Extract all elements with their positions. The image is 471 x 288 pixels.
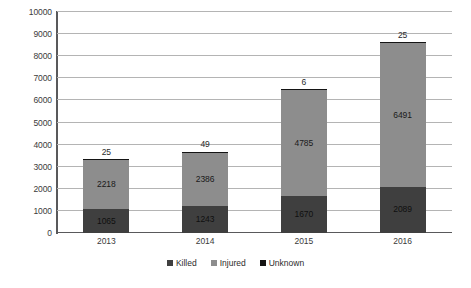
y-axis-tick-label: 4000 xyxy=(33,140,52,150)
y-axis-tick-label: 9000 xyxy=(33,29,52,39)
bar-value-label-injured: 2218 xyxy=(83,180,129,189)
bar-segment-unknown xyxy=(182,152,228,153)
legend-item-injured[interactable]: Injured xyxy=(211,258,246,268)
bar-value-label-unknown: 49 xyxy=(182,140,228,149)
bar-group: 2089649125 xyxy=(380,12,426,233)
legend-label: Unknown xyxy=(269,258,304,268)
y-axis-tick-labels: 1000090008000700060005000400030002000100… xyxy=(0,12,52,233)
bar-value-label-killed: 2089 xyxy=(380,205,426,214)
plot-area: 106522182512432386491670478562089649125 xyxy=(57,12,452,233)
bar-value-label-injured: 6491 xyxy=(380,111,426,120)
bar-value-label-killed: 1670 xyxy=(281,210,327,219)
y-axis-tick-label: 8000 xyxy=(33,51,52,61)
bar-value-label-unknown: 6 xyxy=(281,78,327,87)
y-axis-tick-label: 6000 xyxy=(33,95,52,105)
bar-segment-unknown xyxy=(380,42,426,43)
y-axis-tick-label: 10000 xyxy=(29,7,52,17)
legend-item-unknown[interactable]: Unknown xyxy=(260,258,304,268)
legend-label: Killed xyxy=(176,258,197,268)
x-axis-tick-label: 2013 xyxy=(97,236,116,246)
y-axis-tick-label: 7000 xyxy=(33,73,52,83)
x-axis-tick-label: 2014 xyxy=(196,236,215,246)
legend-item-killed[interactable]: Killed xyxy=(167,258,197,268)
bar-value-label-injured: 4785 xyxy=(281,139,327,148)
y-axis-tick-label: 0 xyxy=(47,228,52,238)
bars-layer: 106522182512432386491670478562089649125 xyxy=(57,12,452,233)
legend-label: Injured xyxy=(220,258,246,268)
legend-swatch-icon xyxy=(260,260,266,266)
bar-value-label-unknown: 25 xyxy=(83,148,129,157)
bar-value-label-killed: 1065 xyxy=(83,217,129,226)
stacked-bar-chart: 1000090008000700060005000400030002000100… xyxy=(0,0,471,288)
x-axis-tick-label: 2016 xyxy=(393,236,412,246)
bar-value-label-injured: 2386 xyxy=(182,175,228,184)
bar-value-label-killed: 1243 xyxy=(182,215,228,224)
bar-value-label-unknown: 25 xyxy=(380,31,426,40)
y-axis-tick-label: 2000 xyxy=(33,184,52,194)
bar-group: 1243238649 xyxy=(182,12,228,233)
bar-segment-unknown xyxy=(83,159,129,160)
legend-swatch-icon xyxy=(211,260,217,266)
bar-segment-unknown xyxy=(281,89,327,90)
x-axis-tick-labels: 2013201420152016 xyxy=(57,236,452,252)
bar-group: 167047856 xyxy=(281,12,327,233)
legend-swatch-icon xyxy=(167,260,173,266)
chart-legend: KilledInjuredUnknown xyxy=(0,258,471,268)
x-axis-tick-label: 2015 xyxy=(294,236,313,246)
y-axis-tick-label: 1000 xyxy=(33,206,52,216)
bar-group: 1065221825 xyxy=(83,12,129,233)
y-axis-tick-label: 3000 xyxy=(33,162,52,172)
y-axis-tick-label: 5000 xyxy=(33,118,52,128)
